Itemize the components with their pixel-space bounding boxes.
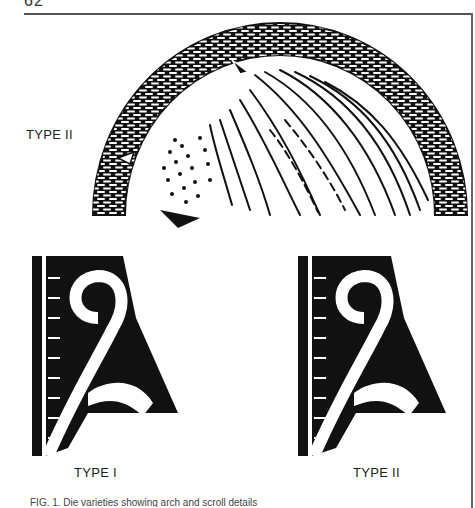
figure-caption: FIG. 1. Die varieties showing arch and s… [30,497,470,507]
bottom-left-type-label: TYPE I [74,465,117,480]
scroll-type-1-illustration [28,248,228,458]
top-type-label: TYPE II [26,127,73,142]
arch-illustration [0,0,475,240]
bottom-right-type-label: TYPE II [353,465,400,480]
scroll-type-2-illustration [296,248,475,458]
